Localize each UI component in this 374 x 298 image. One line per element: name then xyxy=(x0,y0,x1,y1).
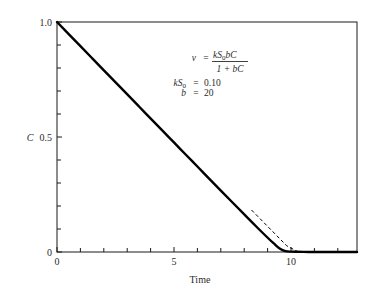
equation-equals-sign: = xyxy=(203,53,208,63)
parameter-b-symbol: b xyxy=(181,88,186,98)
y-tick-label-0point5: 0.5 xyxy=(40,132,53,143)
x-axis-title: Time xyxy=(190,274,211,285)
y-axis-title: C xyxy=(27,132,34,143)
equation-numerator-main: kS xyxy=(213,50,222,60)
kinetics-plot-svg: 1.0 0.5 0 C 0 5 10 Time v = kS0bC 1 + bC xyxy=(0,0,374,298)
chart-figure: 1.0 0.5 0 C 0 5 10 Time v = kS0bC 1 + bC xyxy=(0,0,374,298)
parameter-b-equals-sign: = xyxy=(193,88,198,98)
x-tick-label-5: 5 xyxy=(172,256,177,267)
x-tick-label-0: 0 xyxy=(55,256,60,267)
parameter-kS0-symbol-main: kS xyxy=(174,78,183,88)
equation-numerator: kS0bC xyxy=(213,50,237,62)
parameter-kS0-value: 0.10 xyxy=(204,78,221,88)
parameter-b-value: 20 xyxy=(204,88,214,98)
parameter-kS0-equals-sign: = xyxy=(193,78,198,88)
equation-lhs-symbol: v xyxy=(192,53,197,63)
equation-denominator: 1 + bC xyxy=(217,64,245,74)
y-tick-label-1: 1.0 xyxy=(40,17,53,28)
y-axis-ticks xyxy=(57,22,62,252)
equation-numerator-rest: bC xyxy=(225,50,237,60)
annotation-parameter-b-group: b = 20 xyxy=(181,88,214,98)
x-tick-label-10: 10 xyxy=(286,256,296,267)
annotation-equation-group: v = kS0bC 1 + bC xyxy=(192,50,248,75)
y-tick-label-0: 0 xyxy=(47,247,52,258)
